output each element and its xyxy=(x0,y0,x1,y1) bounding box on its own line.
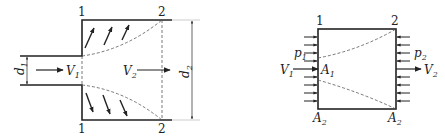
label-p2: p2 xyxy=(414,46,427,62)
label-a2-right: A2 xyxy=(387,111,402,127)
label-a1: A1 xyxy=(320,63,335,79)
label-section-1-bottom: 1 xyxy=(78,122,86,136)
label-d1: d1 xyxy=(13,62,29,75)
cv-label-section-1: 1 xyxy=(316,14,324,28)
figure: 1 2 1 2 V1 V2 d1 d2 xyxy=(0,0,445,140)
label-d2: d2 xyxy=(178,65,194,78)
label-a2-left: A2 xyxy=(312,111,327,127)
control-volume-diagram: 1 2 p1 p2 V1 V2 A1 A2 A2 xyxy=(280,14,438,127)
cv-label-v2: V2 xyxy=(424,63,438,79)
label-v1: V1 xyxy=(66,64,80,80)
label-section-2-top: 2 xyxy=(158,5,166,19)
label-v2: V2 xyxy=(123,64,137,80)
control-volume-box xyxy=(318,29,396,109)
label-p1: p1 xyxy=(294,46,307,62)
label-section-2-bottom: 2 xyxy=(158,122,166,136)
cv-label-section-2: 2 xyxy=(391,14,399,28)
cv-label-v1: V1 xyxy=(280,63,294,79)
sudden-expansion-diagram: 1 2 1 2 V1 V2 d1 d2 xyxy=(13,5,200,136)
label-section-1-top: 1 xyxy=(78,5,86,19)
cv-dashed-lines xyxy=(318,29,396,109)
